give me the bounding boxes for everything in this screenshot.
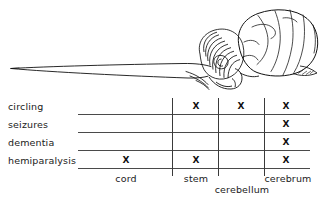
signs-by-location-table: circling seizures dementia hemiparalysis… [0, 96, 321, 202]
table-vline-stem-cerebellum [218, 98, 219, 176]
mark-circling-stem: X [193, 102, 200, 111]
mark-circling-cerebellum: X [238, 102, 245, 111]
column-label-cerebrum: cerebrum [264, 173, 311, 184]
mark-hemiparalysis-cerebrum: X [283, 156, 290, 165]
medulla-flexure-icon [186, 72, 209, 90]
table-hline-3 [78, 150, 310, 151]
mark-hemiparalysis-cord: X [123, 156, 130, 165]
table-hline-1 [78, 114, 310, 115]
brain-and-spinal-cord-illustration [0, 0, 321, 96]
row-label-hemiparalysis: hemiparalysis [8, 155, 76, 166]
row-label-seizures: seizures [8, 119, 48, 130]
mark-seizures-cerebrum: X [283, 120, 290, 129]
cerebellum-icon [199, 29, 244, 79]
table-vline-cord-stem [172, 98, 173, 176]
mark-circling-cerebrum: X [283, 102, 290, 111]
table-hline-4 [78, 168, 310, 169]
spinal-cord-icon [11, 63, 211, 78]
column-label-cerebellum: cerebellum [215, 184, 270, 195]
row-label-dementia: dementia [8, 137, 54, 148]
row-label-circling: circling [8, 101, 43, 112]
mark-dementia-cerebrum: X [283, 138, 290, 147]
table-vline-cerebellum-cerebrum [264, 98, 265, 176]
neurologic-signs-figure: circling seizures dementia hemiparalysis… [0, 0, 321, 202]
column-label-cord: cord [115, 173, 136, 184]
mark-hemiparalysis-stem: X [193, 156, 200, 165]
column-label-stem: stem [184, 173, 208, 184]
cerebral-sulci-icon [243, 10, 315, 75]
table-hline-2 [78, 132, 310, 133]
